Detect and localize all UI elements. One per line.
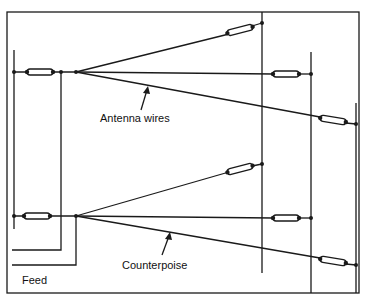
counterpoise-wires [76,164,356,265]
antenna-wires [76,23,356,124]
feed-line-top [12,72,61,250]
insulators [22,23,349,266]
feed-label: Feed [22,274,47,286]
counterpoise-label: Counterpoise [122,259,187,271]
feed-line-bottom [12,216,76,265]
antenna-wires-label: Antenna wires [100,112,170,124]
frame [7,12,359,293]
antenna-diagram: Antenna wires Counterpoise Feed [0,0,367,301]
